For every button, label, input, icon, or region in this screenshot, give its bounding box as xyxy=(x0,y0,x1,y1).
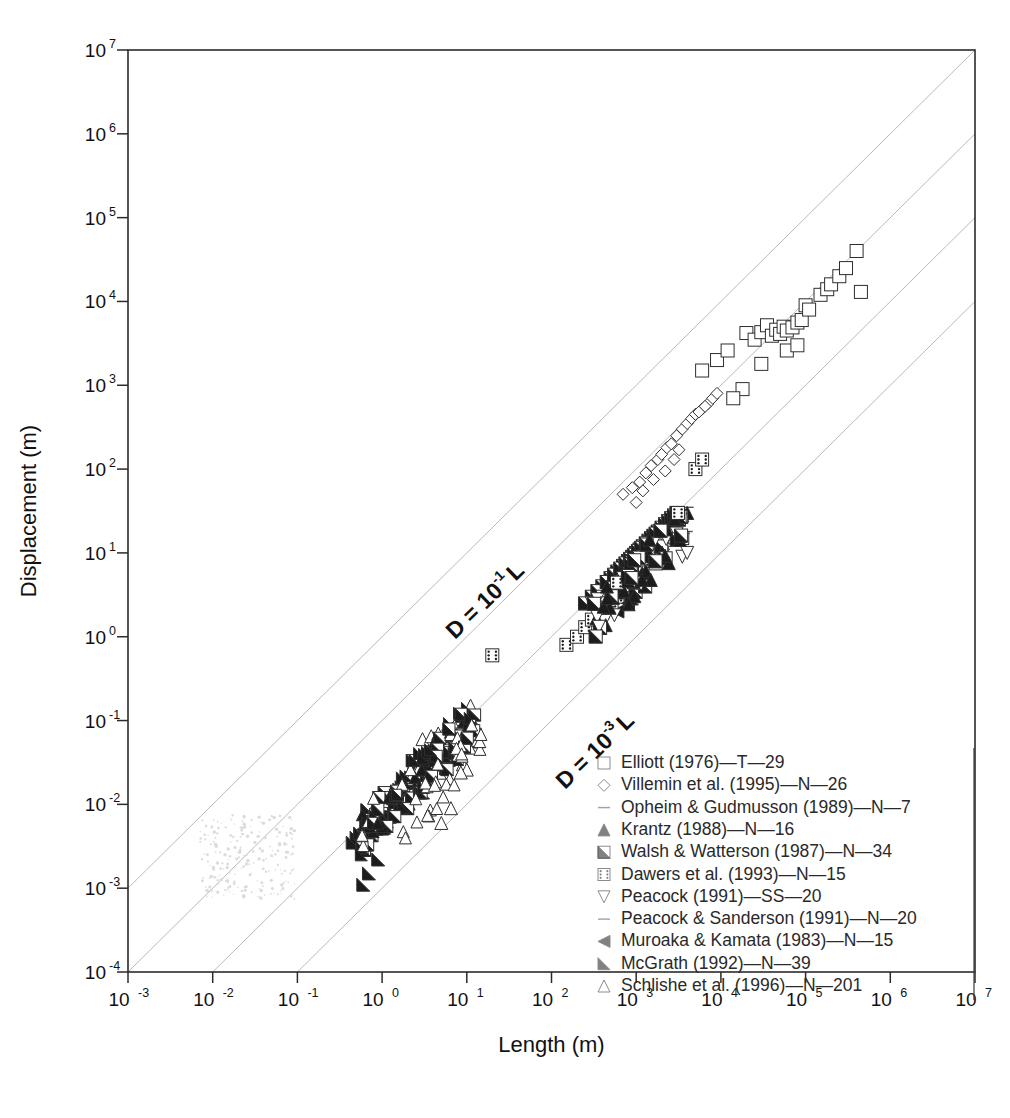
scan-speck xyxy=(271,887,274,890)
scan-speck xyxy=(210,827,212,829)
legend-marker xyxy=(598,980,610,992)
legend-entry-9[interactable]: McGrath (1992)—N—39 xyxy=(598,953,811,973)
scan-speck xyxy=(199,837,202,840)
tick-label: 10-3 xyxy=(108,986,149,1010)
scan-speck xyxy=(270,879,273,882)
legend-entry-10[interactable]: Schlishe et al. (1996)—N—201 xyxy=(598,975,862,995)
scan-speck xyxy=(203,853,205,855)
svg-text:6: 6 xyxy=(109,121,116,135)
scan-speck xyxy=(229,855,232,858)
data-point-marker xyxy=(698,468,700,470)
scan-speck xyxy=(293,898,295,900)
data-point-marker xyxy=(612,578,614,580)
scan-speck xyxy=(268,818,271,821)
scan-speck xyxy=(244,886,246,888)
data-point-marker xyxy=(598,779,610,791)
scan-speck xyxy=(262,822,265,825)
scan-speck xyxy=(275,828,279,832)
data-point-marker xyxy=(697,455,699,457)
scan-speck xyxy=(263,836,267,840)
data-point-marker xyxy=(691,464,693,466)
scan-speck xyxy=(218,827,220,829)
legend-label: Schlishe et al. (1996)—N—201 xyxy=(621,975,862,995)
scan-speck xyxy=(291,869,293,871)
svg-text:10: 10 xyxy=(108,989,129,1010)
scan-speck xyxy=(227,882,229,884)
legend-entry-4[interactable]: Walsh & Watterson (1987)—N—34 xyxy=(598,841,892,861)
data-point-marker xyxy=(680,515,682,517)
scan-speck xyxy=(242,865,245,868)
scan-speck xyxy=(238,856,240,858)
data-point-marker xyxy=(572,636,574,638)
scan-speck xyxy=(281,873,283,875)
scan-speck xyxy=(223,894,224,895)
data-point-marker xyxy=(696,364,709,377)
svg-text:-4: -4 xyxy=(109,959,120,973)
data-point-marker xyxy=(444,802,457,815)
legend-entry-3[interactable]: Krantz (1988)—N—16 xyxy=(598,819,794,839)
data-point-marker xyxy=(580,622,582,624)
svg-text:10: 10 xyxy=(532,989,553,1010)
scan-speck xyxy=(291,833,293,835)
data-point-marker xyxy=(617,488,629,500)
scan-speck xyxy=(227,889,229,891)
scan-speck xyxy=(285,880,286,881)
legend-entry-1[interactable]: Villemin et al. (1995)—N—26 xyxy=(598,774,847,794)
plot-frame xyxy=(128,50,975,972)
legend-entry-8[interactable]: Muroaka & Kamata (1983)—N—15 xyxy=(598,930,893,950)
scan-speck xyxy=(221,823,222,824)
scan-speck xyxy=(223,868,225,870)
data-point-marker xyxy=(362,867,375,880)
reference-line-0 xyxy=(128,50,975,888)
data-point-marker xyxy=(612,581,614,583)
scan-speck xyxy=(235,857,237,859)
scan-speck xyxy=(210,889,213,892)
scan-speck xyxy=(214,843,217,846)
data-point-marker xyxy=(572,639,574,641)
scan-speck xyxy=(240,836,242,838)
scan-speck xyxy=(228,885,231,888)
tick-label: 100 xyxy=(363,986,400,1010)
scan-speck xyxy=(259,847,262,850)
scan-speck xyxy=(215,851,217,853)
legend-marker xyxy=(598,757,610,769)
scan-speck xyxy=(226,862,229,865)
data-point-marker xyxy=(791,339,804,352)
data-point-marker xyxy=(691,472,693,474)
svg-text:10: 10 xyxy=(871,989,892,1010)
scan-speck xyxy=(262,867,265,870)
scan-speck xyxy=(260,822,261,823)
scan-speck xyxy=(234,823,236,825)
scan-speck xyxy=(276,836,278,838)
scan-speck xyxy=(289,872,291,874)
scan-speck xyxy=(209,865,210,866)
legend-label: Peacock (1991)—SS—20 xyxy=(621,886,822,906)
scan-speck xyxy=(232,835,235,838)
scan-speck xyxy=(251,819,253,821)
scan-speck xyxy=(199,841,201,843)
data-point-marker xyxy=(580,626,582,628)
scan-speck xyxy=(251,831,254,834)
scan-speck xyxy=(260,889,263,892)
legend-entry-0[interactable]: Elliott (1976)—T—29 xyxy=(598,752,784,772)
legend-entry-5[interactable]: Dawers et al. (1993)—N—15 xyxy=(598,864,846,884)
legend-entry-2[interactable]: Opheim & Gudmusson (1989)—N—7 xyxy=(598,797,911,817)
annotation-text: L xyxy=(501,557,529,585)
scan-speck xyxy=(242,815,245,818)
legend-entry-6[interactable]: Peacock (1991)—SS—20 xyxy=(598,886,822,906)
scan-speck xyxy=(213,819,215,821)
scan-speck xyxy=(243,889,246,892)
svg-text:5: 5 xyxy=(109,205,116,219)
scan-speck xyxy=(249,874,252,877)
scan-speck xyxy=(282,826,284,828)
scan-speck xyxy=(262,885,264,887)
tick-label: 105 xyxy=(85,205,116,229)
scan-speck xyxy=(210,843,212,845)
scan-speck xyxy=(291,838,293,840)
data-point-marker xyxy=(372,853,385,866)
data-point-marker xyxy=(598,824,610,836)
data-point-marker xyxy=(673,512,675,514)
scan-speck xyxy=(293,829,296,832)
legend-entry-7[interactable]: Peacock & Sanderson (1991)—N—20 xyxy=(598,908,917,928)
scan-speck xyxy=(207,834,208,835)
